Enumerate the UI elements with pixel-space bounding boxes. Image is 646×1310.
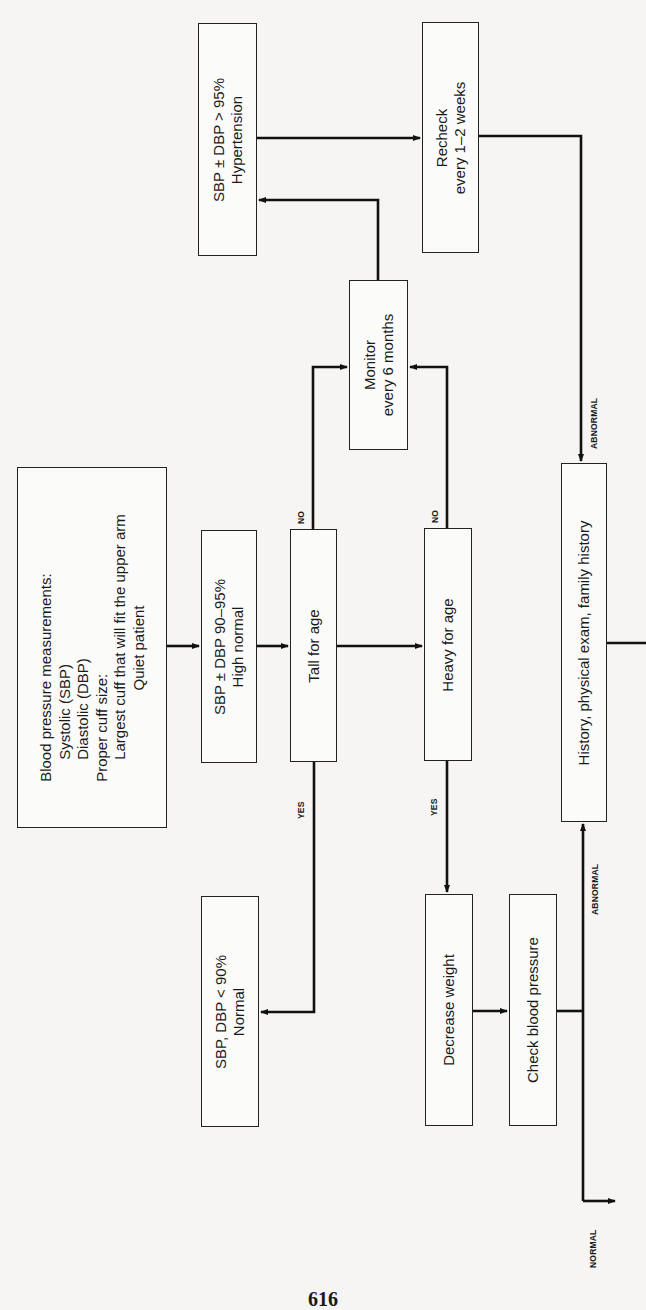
node-text: Quiet patient	[129, 514, 148, 782]
node-text: High normal	[229, 578, 247, 714]
node-text: Recheck	[433, 81, 451, 194]
node-recheck: Recheck every 1–2 weeks	[422, 22, 479, 253]
node-text: Decrease weight	[440, 954, 458, 1066]
node-decrease-weight: Decrease weight	[425, 894, 473, 1126]
edge-label-tall-no: NO	[296, 511, 306, 524]
node-text: History, physical exam, family history	[575, 520, 593, 765]
node-text: Largest cuff that will fit the upper arm	[111, 514, 130, 782]
node-text: Proper cuff size:	[92, 514, 111, 782]
node-text: every 1–2 weeks	[451, 81, 469, 194]
page-number: 616	[0, 1288, 646, 1310]
node-text: Hypertension	[228, 78, 246, 202]
node-text: SBP, DBP < 90%	[212, 954, 230, 1068]
node-text: Diastolic (DBP)	[74, 514, 93, 782]
node-hypertension: SBP ± DBP > 95% Hypertension	[198, 23, 257, 256]
edge-label-heavy-yes: YES	[429, 798, 439, 816]
node-check-bp: Check blood pressure	[509, 894, 557, 1126]
node-history: History, physical exam, family history	[561, 463, 607, 822]
node-bp-measurements: Blood pressure measurements: Systolic (S…	[17, 467, 167, 828]
node-text: Tall for age	[305, 609, 323, 682]
node-monitor: Monitor every 6 months	[349, 280, 408, 450]
edge-label-tall-yes: YES	[296, 801, 306, 819]
node-heavy-for-age: Heavy for age	[424, 528, 472, 761]
node-text: every 6 months	[379, 314, 397, 417]
node-text: Heavy for age	[439, 598, 457, 691]
node-text: Systolic (SBP)	[55, 514, 74, 782]
node-text: Normal	[230, 954, 248, 1068]
edge-label-heavy-no: NO	[430, 510, 440, 523]
node-text: Blood pressure measurements:	[37, 514, 56, 782]
edge-label-check-normal: NORMAL	[588, 1230, 598, 1269]
node-high-normal: SBP ± DBP 90–95% High normal	[201, 530, 257, 763]
edge-label-check-abnormal: ABNORMAL	[590, 864, 600, 915]
node-tall-for-age: Tall for age	[290, 529, 337, 762]
node-text: Monitor	[361, 314, 379, 417]
edge-label-recheck-abnormal: ABNORMAL	[589, 398, 599, 449]
node-text: SBP ± DBP > 95%	[210, 78, 228, 202]
node-text: SBP ± DBP 90–95%	[211, 578, 229, 714]
node-text: Check blood pressure	[524, 937, 542, 1083]
node-normal: SBP, DBP < 90% Normal	[201, 896, 259, 1127]
